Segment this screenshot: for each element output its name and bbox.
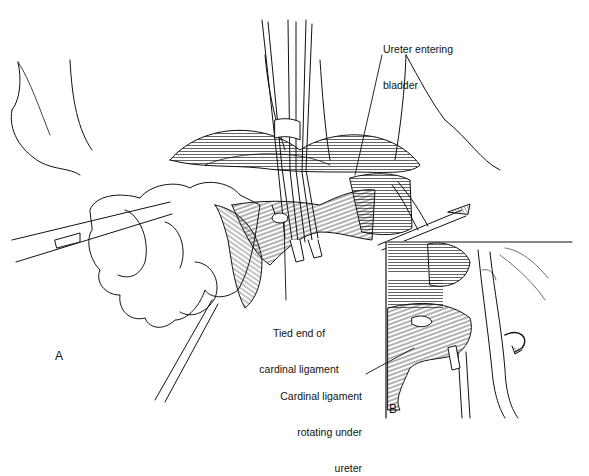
label-line: Cardinal ligament bbox=[262, 390, 362, 402]
label-line: bladder bbox=[383, 79, 453, 91]
label-cardinal-ligament-rotating: Cardinal ligament rotating under ureter bbox=[262, 366, 362, 476]
label-line: ureter bbox=[262, 462, 362, 474]
panel-label-a: A bbox=[55, 349, 63, 363]
panel-label-b: B bbox=[389, 402, 397, 416]
label-line: Tied end of bbox=[244, 327, 354, 339]
label-line: Ureter entering bbox=[383, 43, 453, 55]
label-ureter-entering-bladder: Ureter entering bladder bbox=[383, 19, 453, 115]
panel-b-drawing bbox=[386, 241, 586, 418]
label-line: rotating under bbox=[262, 426, 362, 438]
